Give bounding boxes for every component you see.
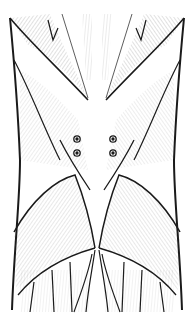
spine-region [82,14,112,80]
left-upper-back-muscle [10,14,88,170]
muscle-drawing [0,0,194,323]
right-upper-back-muscle [106,14,184,170]
thigh-hatching [20,270,174,312]
anatomy-illustration [0,0,194,323]
